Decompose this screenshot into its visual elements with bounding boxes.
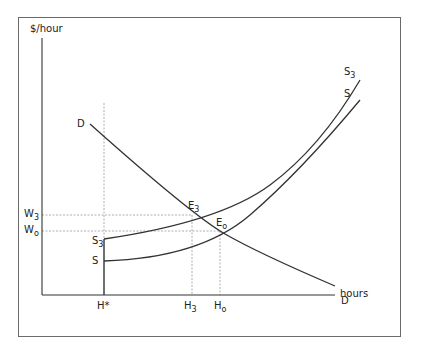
demand-curve	[90, 124, 335, 286]
wage-w3-label: W3	[24, 209, 39, 219]
wage-wo-label: Wo	[24, 225, 39, 235]
y-axis-label: $/hour	[30, 24, 63, 34]
hours-ho-label: Ho	[214, 301, 226, 311]
demand-label-start: D	[77, 119, 85, 129]
supply-label-start: S	[92, 256, 98, 266]
demand-label-end: D	[341, 296, 349, 306]
supply3-label-end: S3	[344, 67, 355, 77]
supply-label-end: S	[344, 89, 350, 99]
guide-lines	[42, 103, 220, 295]
supply-curve	[104, 100, 360, 261]
supply3-curve	[104, 80, 360, 239]
supply3-label-start: S3	[92, 236, 103, 246]
hours-h-star-label: H*	[97, 301, 110, 311]
equilibrium-eo-label: Eo	[216, 218, 227, 228]
hours-h3-label: H3	[184, 301, 197, 311]
equilibrium-e3-label: E3	[188, 201, 199, 211]
